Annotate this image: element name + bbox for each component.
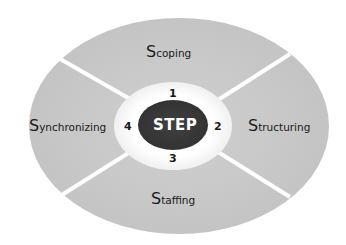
phase-label-scoping: Scoping <box>146 44 191 60</box>
phase-number-1: 1 <box>169 88 177 99</box>
phase-label-rest: tructuring <box>258 121 310 133</box>
phase-label-initial: S <box>248 116 258 135</box>
phase-label-rest: coping <box>156 47 191 59</box>
phase-label-rest: taffing <box>161 194 195 206</box>
phase-label-initial: S <box>146 42 156 61</box>
phase-label-rest: ynchronizing <box>39 121 106 133</box>
phase-number-3: 3 <box>169 153 177 164</box>
phase-label-initial: S <box>151 189 161 208</box>
phase-number-4: 4 <box>124 121 132 132</box>
center-label: STEP <box>153 118 197 133</box>
phase-label-staffing: Staffing <box>151 191 195 207</box>
phase-label-initial: S <box>29 116 39 135</box>
phase-label-structuring: Structuring <box>248 118 310 134</box>
phase-label-synchronizing: Synchronizing <box>29 118 106 134</box>
phase-number-2: 2 <box>214 121 222 132</box>
